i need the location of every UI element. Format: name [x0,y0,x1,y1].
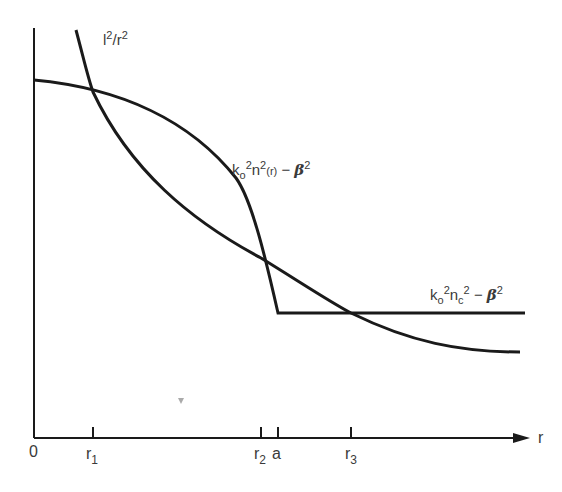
cladding-minus: − [470,286,487,303]
centrifugal-label-r: /r [112,31,121,48]
x-axis-label: r [538,430,543,446]
profile-n: n [252,161,260,178]
profile-beta-sup: 2 [304,159,310,171]
tick-label-a: a [272,446,281,462]
profile-beta: β [294,161,304,179]
cladding-n: n [450,286,458,303]
cladding-label: ko2nc2 − β2 [430,285,503,306]
cladding-beta: β [487,286,497,304]
profile-minus: − [277,161,294,178]
origin-label: 0 [29,444,38,460]
profile-n-arg: (r) [266,165,277,177]
cladding-beta-sup: 2 [497,284,503,296]
profile-curve [34,80,525,313]
profile-label: ko2n2(r) − β2 [232,160,310,181]
tick-label-r3: r3 [345,446,357,466]
potential-diagram [0,0,562,492]
tick-label-r3-sub: 3 [350,453,357,467]
tick-label-r2-sub: 2 [259,453,266,467]
cladding-k: k [430,286,438,303]
scan-artifact [178,398,184,404]
tick-label-r1-sub: 1 [91,453,98,467]
centrifugal-label: l2/r2 [103,30,128,47]
tick-label-r1: r1 [86,446,98,466]
profile-k: k [232,161,240,178]
centrifugal-label-sup2: 2 [122,29,128,41]
tick-label-a-base: a [272,445,281,462]
tick-label-r2: r2 [254,446,266,466]
x-axis-arrow-icon [513,433,530,443]
